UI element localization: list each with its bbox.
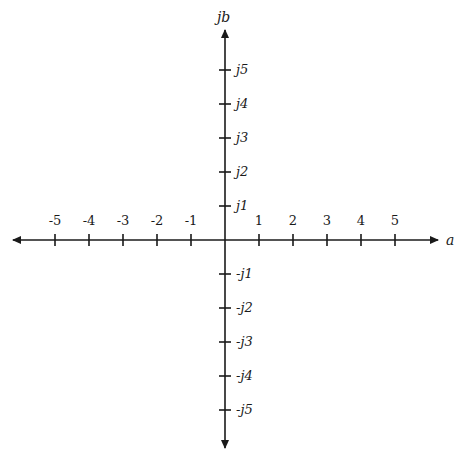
tick-label: j2: [233, 164, 248, 179]
tick-label: j4: [233, 96, 248, 111]
complex-plane-diagram: -5-4-3-2-112345j1j2j3j4j5-j1-j2-j3-j4-j5…: [0, 0, 469, 462]
imaginary-axis-label: jb: [214, 9, 230, 25]
tick-label: -j3: [236, 334, 253, 349]
tick-label: -j1: [236, 266, 253, 281]
tick-label: j3: [233, 130, 248, 145]
real-axis-label: a: [446, 232, 454, 248]
tick-label: -j5: [236, 402, 253, 417]
tick-label: j5: [233, 62, 248, 77]
tick-label: -5: [49, 213, 62, 228]
tick-label: j1: [233, 198, 248, 213]
tick-label: -3: [117, 213, 130, 228]
tick-label: -j2: [236, 300, 253, 315]
tick-label: -1: [185, 213, 198, 228]
tick-label: -j4: [236, 368, 253, 383]
tick-label: 2: [289, 213, 297, 228]
tick-label: -2: [151, 213, 164, 228]
tick-label: 1: [255, 213, 263, 228]
tick-label: 5: [391, 213, 399, 228]
tick-label: 3: [323, 213, 331, 228]
tick-label: -4: [83, 213, 96, 228]
tick-label: 4: [357, 213, 365, 228]
